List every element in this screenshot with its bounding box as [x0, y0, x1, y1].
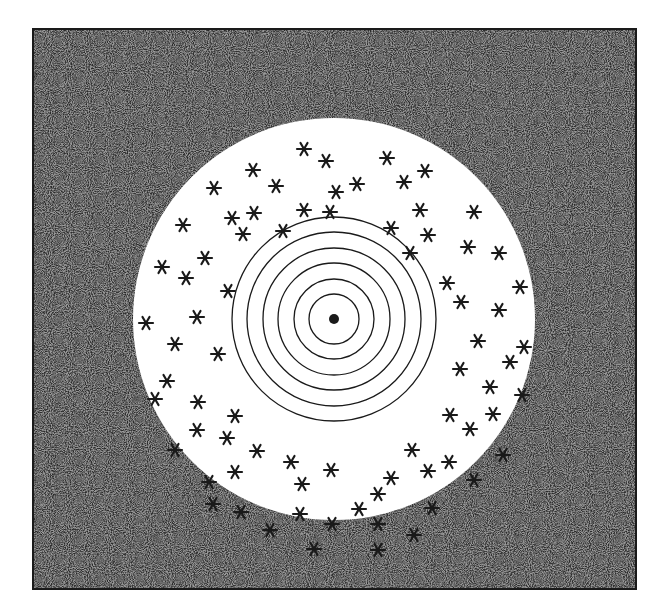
diagram-figure [0, 0, 665, 611]
diagram-canvas [0, 0, 665, 611]
center-dot [329, 314, 339, 324]
center-dot-shape [329, 314, 339, 324]
